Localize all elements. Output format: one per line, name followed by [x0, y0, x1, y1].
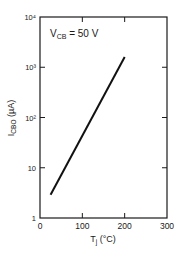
- y-axis-label: ICBO (µA): [6, 100, 17, 136]
- x-tick-label: 300: [160, 221, 174, 231]
- x-tick-label: 100: [75, 221, 89, 231]
- y-tick-label: 1: [32, 214, 36, 223]
- chart: 010020030011010²10³10⁴ VCB = 50 V Tj (°C…: [0, 0, 185, 255]
- y-tick-label: 10⁴: [24, 13, 36, 22]
- y-tick-label: 10²: [25, 114, 36, 123]
- x-tick-label: 0: [38, 221, 43, 231]
- annotation: VCB = 50 V: [50, 28, 99, 40]
- y-tick-label: 10³: [25, 63, 36, 72]
- x-axis-label: Tj (°C): [90, 234, 116, 246]
- data-series-line: [51, 57, 125, 195]
- plot-frame: [40, 17, 167, 218]
- y-tick-label: 10: [28, 164, 36, 173]
- axis-ticks: 010020030011010²10³10⁴: [24, 13, 174, 231]
- x-tick-label: 200: [118, 221, 132, 231]
